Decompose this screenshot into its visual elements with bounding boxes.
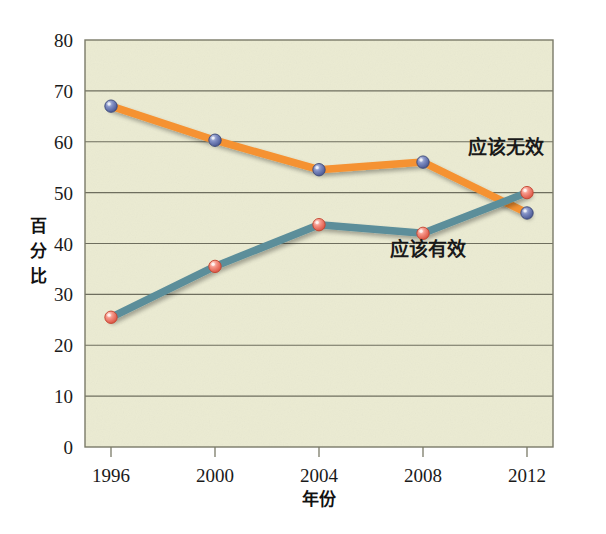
y-tick-label-10: 10 — [54, 386, 73, 407]
data-point-highlight — [419, 158, 422, 161]
data-point-highlight — [523, 209, 526, 212]
data-point-highlight — [523, 189, 526, 192]
series-label-1: 应该有效 — [390, 238, 466, 260]
data-point-highlight — [315, 221, 318, 224]
data-point-0-2000[interactable] — [209, 134, 221, 146]
x-tick-label-1996: 1996 — [92, 465, 130, 486]
data-point-highlight — [315, 166, 318, 169]
chart-canvas: 01020304050607080 19962000200420082012 应… — [0, 0, 606, 534]
data-point-0-1996[interactable] — [105, 100, 117, 112]
data-point-0-2008[interactable] — [417, 156, 429, 168]
data-point-1-2012[interactable] — [521, 186, 533, 198]
y-axis-title: 百分比 — [30, 216, 47, 286]
x-tick-label-2004: 2004 — [300, 465, 339, 486]
x-tick-label-2000: 2000 — [196, 465, 234, 486]
data-point-1-2004[interactable] — [313, 218, 325, 230]
data-point-0-2012[interactable] — [521, 207, 533, 219]
x-axis-tick-labels: 19962000200420082012 — [92, 465, 546, 486]
data-point-highlight — [419, 230, 422, 233]
data-point-highlight — [107, 313, 110, 316]
y-axis-title-char-1: 分 — [30, 241, 47, 261]
data-point-0-2004[interactable] — [313, 164, 325, 176]
y-tick-label-80: 80 — [54, 30, 73, 51]
x-axis-tick-marks — [111, 447, 527, 457]
y-tick-label-30: 30 — [54, 284, 73, 305]
y-tick-label-60: 60 — [54, 132, 73, 153]
line-chart: 01020304050607080 19962000200420082012 应… — [0, 0, 606, 534]
x-axis-title: 年份 — [302, 489, 337, 509]
x-tick-label-2008: 2008 — [404, 465, 442, 486]
y-tick-label-50: 50 — [54, 183, 73, 204]
data-point-highlight — [211, 263, 214, 266]
y-tick-label-40: 40 — [54, 234, 73, 255]
y-axis-tick-labels: 01020304050607080 — [54, 30, 73, 458]
data-point-highlight — [107, 102, 110, 105]
data-point-1-1996[interactable] — [105, 311, 117, 323]
y-axis-title-char-2: 比 — [30, 266, 47, 286]
y-axis-title-char-0: 百 — [30, 216, 47, 236]
y-tick-label-70: 70 — [54, 81, 73, 102]
data-point-highlight — [211, 136, 214, 139]
y-tick-label-0: 0 — [64, 437, 74, 458]
y-tick-label-20: 20 — [54, 335, 73, 356]
data-point-1-2000[interactable] — [209, 260, 221, 272]
series-label-0: 应该无效 — [468, 136, 544, 158]
x-tick-label-2012: 2012 — [508, 465, 546, 486]
